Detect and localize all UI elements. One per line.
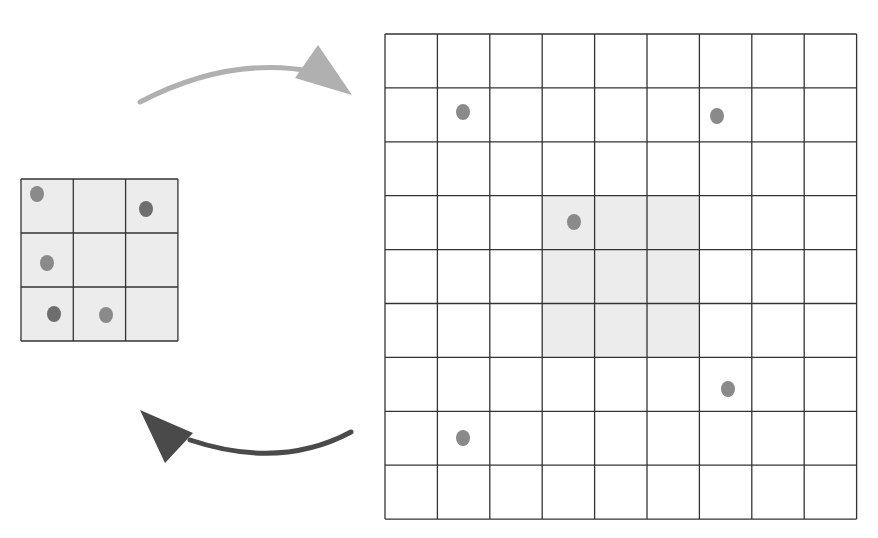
dot	[47, 306, 61, 322]
dot	[40, 255, 54, 271]
diagram-canvas	[0, 0, 878, 538]
dot	[99, 307, 113, 323]
contract-arrow-shaft	[190, 432, 351, 453]
dot	[456, 430, 470, 446]
large-grid	[385, 34, 857, 519]
dot	[710, 108, 724, 124]
highlight-region	[542, 196, 699, 358]
dot	[30, 186, 44, 202]
expand-arrow-shaft	[140, 67, 315, 102]
dot	[139, 201, 153, 217]
dot	[567, 214, 581, 230]
small-grid	[21, 179, 178, 341]
contract-arrow-head	[140, 410, 193, 463]
expand-arrow-head	[295, 45, 352, 95]
dot	[456, 104, 470, 120]
dot	[721, 381, 735, 397]
